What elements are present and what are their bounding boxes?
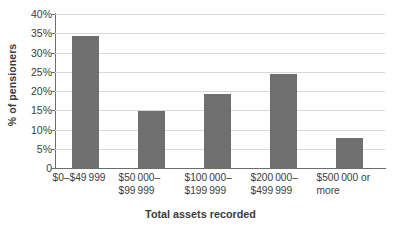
bar[interactable]: [270, 74, 297, 168]
x-axis-title: Total assets recorded: [0, 208, 401, 220]
x-axis-tick-label: $50 000– $99 999: [119, 172, 161, 197]
y-axis-tick-label: 10%: [0, 124, 52, 136]
y-axis-tick-label: 40%: [0, 8, 52, 20]
x-axis-tick-label: $200 000– $499 999: [251, 172, 298, 197]
bar[interactable]: [336, 138, 363, 168]
bar[interactable]: [138, 111, 165, 168]
plot-area: [55, 14, 385, 168]
y-axis-tick-label: 0: [0, 162, 52, 174]
x-axis-tick-label: $500 000 or more: [317, 172, 371, 197]
y-axis-tick-label: 30%: [0, 47, 52, 59]
bar[interactable]: [204, 94, 231, 168]
y-axis-tick-label: 20%: [0, 85, 52, 97]
x-axis-line: [55, 168, 386, 169]
bar-chart: % of pensioners 05%10%15%20%25%30%35%40%…: [0, 0, 401, 231]
x-axis-tick-label: $100 000– $199 999: [185, 172, 232, 197]
gridline: [55, 14, 385, 15]
y-axis-tick-mark: [51, 168, 55, 169]
gridline: [55, 91, 385, 92]
bar[interactable]: [72, 36, 99, 168]
gridline: [55, 53, 385, 54]
x-axis-tick-label: $0–$49 999: [53, 172, 106, 185]
y-axis-tick-label: 35%: [0, 27, 52, 39]
gridline: [55, 72, 385, 73]
y-axis-tick-label: 5%: [0, 143, 52, 155]
y-axis-tick-label: 25%: [0, 66, 52, 78]
y-axis-tick-label: 15%: [0, 104, 52, 116]
gridline: [55, 33, 385, 34]
